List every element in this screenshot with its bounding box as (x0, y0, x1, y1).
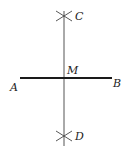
label-d: D (74, 130, 84, 143)
label-b: B (112, 77, 121, 90)
label-c: C (75, 10, 84, 23)
label-m: M (66, 64, 79, 77)
bisector-diagram: C M A B D (0, 0, 130, 155)
label-a: A (9, 81, 18, 94)
